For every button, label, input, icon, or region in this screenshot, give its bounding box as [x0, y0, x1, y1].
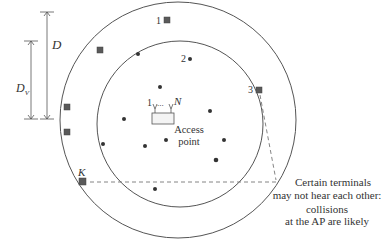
inner-terminal-dot — [158, 85, 162, 89]
terminal — [64, 104, 70, 110]
inner-terminal-dot — [153, 187, 157, 191]
collision-annotation: Certain terminals may not hear each othe… — [262, 176, 383, 238]
label-terminal-1: 1 — [156, 16, 161, 26]
terminal — [64, 129, 70, 135]
access-point-label: Access point — [172, 124, 206, 148]
label-antenna-1: 1 — [147, 98, 152, 108]
label-antenna-n: N — [174, 96, 181, 107]
label-terminal-2: 2 — [181, 54, 186, 64]
annotation-line-1: Certain terminals — [268, 176, 383, 189]
inner-terminal-dot — [214, 158, 219, 163]
label-dv: DV — [16, 82, 29, 97]
dimension-dv-arrow — [24, 41, 38, 119]
label-terminal-3: 3 — [248, 85, 253, 95]
inner-terminal-dot — [143, 144, 147, 148]
label-d: D — [52, 38, 61, 51]
terminal-k — [79, 178, 86, 185]
label-terminal-k: K — [78, 167, 85, 178]
terminal-2-dot — [188, 57, 192, 61]
terminal-3 — [256, 87, 262, 93]
inner-terminal-dot — [164, 138, 168, 142]
access-point-label-line1: Access — [172, 124, 206, 136]
annotation-line-2: may not hear each other: — [262, 189, 383, 202]
dimension-d-arrow — [40, 12, 54, 119]
terminal-1 — [164, 17, 170, 23]
label-antenna-dots: ... — [157, 99, 164, 108]
label-dv-main: D — [16, 81, 25, 95]
inner-terminal-dot — [136, 52, 140, 56]
terminal — [97, 47, 103, 53]
inner-terminal-dot — [208, 109, 212, 113]
outer-range-circle — [60, 2, 296, 238]
annotation-line-4: at the AP are likely — [262, 215, 383, 228]
access-point-label-line2: point — [172, 136, 206, 148]
inner-terminal-dot — [101, 142, 105, 146]
inner-terminal-dot — [222, 138, 226, 142]
inner-terminal-dot — [122, 117, 126, 121]
label-dv-sub: V — [25, 89, 29, 97]
annotation-line-3: collisions — [262, 203, 383, 216]
